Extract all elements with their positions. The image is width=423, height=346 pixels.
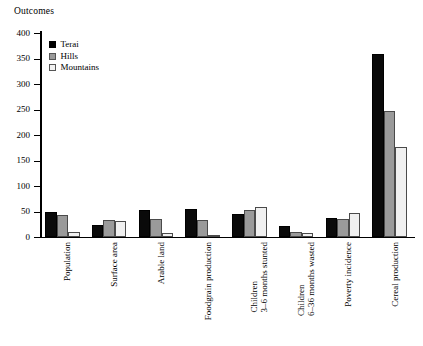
bar-chart: Outcomes 400350300250200150100500 Terai … [0,0,423,346]
x-axis-label: Children3–6 months stunted [249,242,269,313]
bar-group [279,33,314,237]
y-axis-tick-mark [34,84,40,85]
x-axis-label-line: Foodgrain production [203,242,213,320]
bar-hills [244,210,256,237]
x-axis-label-line: Poverty incidence [343,242,353,307]
plot-area [41,33,415,237]
y-axis-tick-mark [34,33,40,34]
x-axis-label-line: Population [62,242,72,281]
bar-terai [372,54,384,237]
x-axis-label-line: Children [249,242,259,313]
bar-mountains [208,235,220,237]
bar-mountains [162,233,174,237]
bar-hills [57,215,69,237]
y-axis-tick-label: 100 [4,182,30,191]
y-axis-tick-mark [34,186,40,187]
x-axis-label: Population [62,242,72,281]
bar-group [45,33,80,237]
x-axis-label-line: Arable land [156,242,166,284]
bar-terai [139,210,151,237]
y-axis-tick-label: 150 [4,156,30,165]
bar-hills [150,219,162,237]
x-axis-label: Foodgrain production [203,242,213,320]
bar-group [372,33,407,237]
bar-terai [279,226,291,237]
x-axis-label-line: Surface area [109,242,119,287]
x-axis-label: Arable land [156,242,166,284]
bar-hills [337,219,349,237]
y-axis-tick-label: 250 [4,105,30,114]
y-axis-tick-label: 350 [4,54,30,63]
y-axis-tick-label: 200 [4,131,30,140]
bar-terai [92,225,104,237]
x-axis-label: Poverty incidence [343,242,353,307]
y-axis-tick-label: 400 [4,29,30,38]
bar-hills [197,220,209,237]
y-axis-tick-mark [34,161,40,162]
bar-group [139,33,174,237]
y-axis-tick-mark [34,135,40,136]
bar-mountains [68,232,80,237]
bar-hills [103,220,115,237]
bar-terai [185,209,197,237]
bar-terai [45,212,57,237]
bar-group [326,33,361,237]
bar-mountains [255,207,267,237]
bar-group [232,33,267,237]
x-axis-label-line: 6–36 months wasted [306,242,316,316]
bar-mountains [349,213,361,237]
x-axis-label-line: Children [296,242,306,316]
bar-group [185,33,220,237]
y-axis-tick-label: 0 [4,233,30,242]
y-axis-tick-mark [34,59,40,60]
bar-mountains [395,147,407,237]
bar-group [92,33,127,237]
bar-terai [326,218,338,237]
y-axis-tick-label: 50 [4,207,30,216]
bar-terai [232,214,244,237]
y-axis-tick-mark [34,110,40,111]
y-axis-tick-mark [34,237,40,238]
x-axis-label: Surface area [109,242,119,287]
x-axis-label-line: 3–6 months stunted [259,242,269,313]
x-axis-label: Cereal production [390,242,400,307]
y-axis-tick-label: 300 [4,80,30,89]
y-axis-title: Outcomes [14,6,54,16]
x-axis-label-line: Cereal production [390,242,400,307]
bar-hills [290,232,302,237]
x-axis-label: Children6–36 months wasted [296,242,316,316]
bar-mountains [115,221,127,237]
y-axis-tick-mark [34,212,40,213]
bar-hills [384,111,396,237]
bar-mountains [302,233,314,237]
